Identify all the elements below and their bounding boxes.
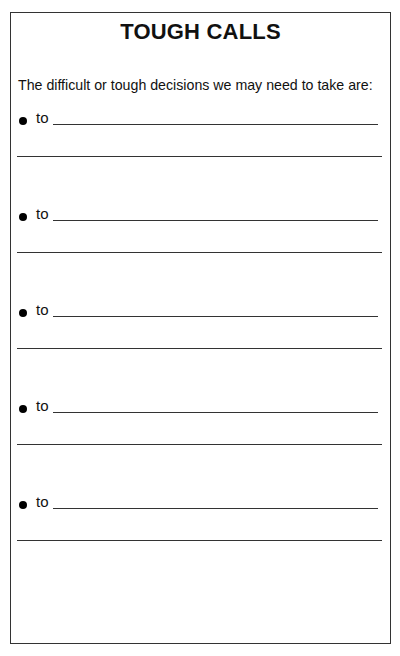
fill-in-line-continuation[interactable] (17, 444, 382, 445)
item-prefix: to (36, 301, 49, 318)
item-prefix: to (36, 109, 49, 126)
intro-text: The difficult or tough decisions we may … (18, 77, 373, 93)
worksheet-frame: TOUGH CALLS The difficult or tough decis… (10, 12, 391, 644)
fill-in-line[interactable] (53, 316, 378, 317)
decision-item: to (11, 113, 390, 173)
fill-in-line-continuation[interactable] (17, 540, 382, 541)
bullet-icon (19, 309, 27, 317)
decision-item: to (11, 401, 390, 461)
decision-item: to (11, 305, 390, 365)
decision-item: to (11, 209, 390, 269)
item-prefix: to (36, 205, 49, 222)
fill-in-line[interactable] (53, 508, 378, 509)
item-prefix: to (36, 493, 49, 510)
fill-in-line-continuation[interactable] (17, 348, 382, 349)
bullet-icon (19, 117, 27, 125)
fill-in-line[interactable] (53, 124, 378, 125)
fill-in-line[interactable] (53, 220, 378, 221)
bullet-icon (19, 405, 27, 413)
fill-in-line[interactable] (53, 412, 378, 413)
bullet-icon (19, 501, 27, 509)
bullet-icon (19, 213, 27, 221)
decision-item: to (11, 497, 390, 557)
item-prefix: to (36, 397, 49, 414)
fill-in-line-continuation[interactable] (17, 156, 382, 157)
fill-in-line-continuation[interactable] (17, 252, 382, 253)
worksheet-title: TOUGH CALLS (11, 19, 390, 45)
